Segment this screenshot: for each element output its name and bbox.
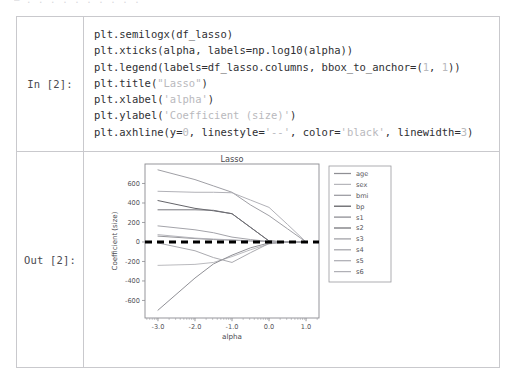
code-token: , linewidth= — [385, 126, 461, 138]
x-axis-label: alpha — [222, 332, 242, 341]
y-tick-label: -400 — [125, 277, 140, 285]
input-prompt-label: In [2]: — [27, 78, 73, 90]
top-clipped-text: — . . . . . . . . . . — [14, 0, 214, 5]
code-line: plt.semilogx(df_lasso) — [94, 26, 499, 42]
code-line: plt.title("Lasso") — [94, 75, 499, 91]
code-token: , linestyle= — [189, 126, 265, 138]
code-token: plt.xlabel( — [94, 93, 164, 105]
code-token: plt.ylabel( — [94, 109, 164, 121]
code-token: 'black' — [341, 126, 385, 138]
code-source[interactable]: plt.semilogx(df_lasso)plt.xticks(alpha, … — [84, 17, 499, 140]
chart-svg: Lasso6004002000-200-400-600-3.0-2.0-1.00… — [92, 152, 422, 365]
y-tick-label: -600 — [125, 297, 140, 305]
legend-label-bp: bp — [356, 203, 364, 211]
x-tick-label: -1.0 — [226, 323, 239, 331]
notebook-output-row: Out [2]: Lasso6004002000-200-400-600-3.0… — [17, 152, 499, 367]
legend-label-s6: s6 — [356, 268, 364, 276]
code-cell[interactable]: plt.semilogx(df_lasso)plt.xticks(alpha, … — [84, 17, 499, 151]
code-token: ) — [208, 93, 214, 105]
code-token: 'Coefficient (size)' — [164, 109, 290, 121]
legend-label-s5: s5 — [356, 257, 364, 265]
code-token: plt.title( — [94, 77, 157, 89]
output-prompt-cell: Out [2]: — [17, 152, 84, 367]
notebook-input-row: In [2]: plt.semilogx(df_lasso)plt.xticks… — [17, 17, 499, 152]
code-line: plt.axhline(y=0, linestyle='--', color='… — [94, 124, 499, 140]
y-tick-label: -200 — [125, 258, 140, 266]
chart-title: Lasso — [220, 154, 243, 164]
code-line: plt.legend(labels=df_lasso.columns, bbox… — [94, 59, 499, 75]
output-prompt-label: Out [2]: — [24, 254, 76, 266]
code-token: plt.axhline(y= — [94, 126, 183, 138]
y-tick-label: 200 — [127, 219, 140, 227]
legend-label-s1: s1 — [356, 214, 364, 222]
y-tick-label: 600 — [127, 180, 140, 188]
legend-label-sex: sex — [356, 181, 367, 189]
code-token: "Lasso" — [157, 77, 201, 89]
code-line: plt.ylabel('Coefficient (size)') — [94, 107, 499, 123]
legend-label-age: age — [356, 170, 368, 178]
code-token: )) — [448, 61, 461, 73]
code-token: , — [429, 61, 442, 73]
code-token: '--' — [265, 126, 290, 138]
code-token: plt.legend(labels=df_lasso.columns, bbox… — [94, 61, 423, 73]
code-token: plt.semilogx(df_lasso) — [94, 28, 233, 40]
code-token: 'alpha' — [164, 93, 208, 105]
legend-label-s2: s2 — [356, 224, 364, 232]
input-prompt-cell: In [2]: — [17, 17, 84, 151]
y-axis-label: Coefficient (size) — [111, 211, 119, 270]
legend-label-s4: s4 — [356, 246, 364, 254]
code-line: plt.xticks(alpha, labels=np.log10(alpha)… — [94, 42, 499, 58]
y-tick-label: 400 — [127, 199, 140, 207]
code-token: , color= — [290, 126, 341, 138]
x-tick-label: -3.0 — [152, 323, 165, 331]
y-tick-label: 0 — [136, 238, 140, 246]
lasso-coefficient-path-chart: Lasso6004002000-200-400-600-3.0-2.0-1.00… — [92, 152, 422, 365]
x-tick-label: 1.0 — [301, 323, 312, 331]
code-line: plt.xlabel('alpha') — [94, 91, 499, 107]
code-token: ) — [290, 109, 296, 121]
notebook-cell: In [2]: plt.semilogx(df_lasso)plt.xticks… — [16, 16, 500, 368]
code-token: plt.xticks(alpha, labels=np.log10(alpha)… — [94, 44, 353, 56]
code-token: ) — [201, 77, 207, 89]
output-cell: Lasso6004002000-200-400-600-3.0-2.0-1.00… — [84, 152, 499, 367]
x-tick-label: 0.0 — [264, 323, 275, 331]
legend-label-s3: s3 — [356, 235, 364, 243]
legend-label-bmi: bmi — [356, 192, 369, 200]
figure-wrapper: Lasso6004002000-200-400-600-3.0-2.0-1.00… — [84, 152, 499, 367]
x-tick-label: -2.0 — [189, 323, 202, 331]
code-token: ) — [467, 126, 473, 138]
